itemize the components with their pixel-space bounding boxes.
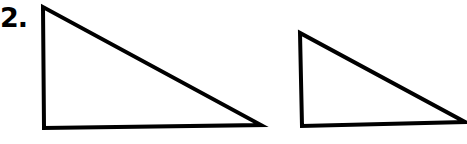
triangle-small	[300, 33, 465, 126]
triangle-large	[43, 7, 261, 128]
triangles-figure	[0, 0, 467, 144]
